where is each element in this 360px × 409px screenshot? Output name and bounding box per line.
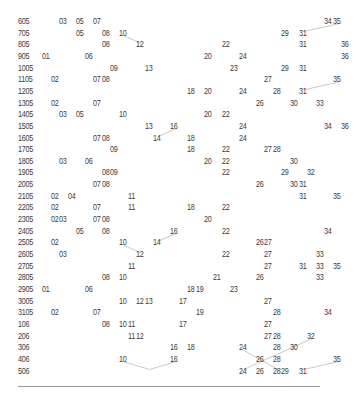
number-cell: 26 (256, 354, 264, 364)
row-label: 1005 (18, 63, 33, 73)
number-cell: 20 (204, 109, 212, 119)
number-cell: 14 (153, 133, 161, 143)
row-label: 2305 (18, 214, 33, 224)
number-cell: 35 (333, 191, 341, 201)
number-cell: 33 (316, 249, 324, 259)
number-cell: 22 (222, 39, 230, 49)
number-cell: 36 (341, 121, 349, 131)
number-cell: 27 (264, 319, 272, 329)
number-cell: 18 (187, 133, 195, 143)
number-cell: 04 (68, 191, 76, 201)
number-cell: 26 (256, 237, 264, 247)
number-cell: 08 (102, 272, 110, 282)
trend-chart: 6050305073435705050810293180508122231369… (0, 0, 360, 409)
number-cell: 09 (110, 144, 118, 154)
number-cell: 24 (239, 342, 247, 352)
row-label: 1305 (18, 98, 33, 108)
number-cell: 17 (179, 296, 187, 306)
connector-line (124, 362, 150, 370)
number-cell: 36 (341, 39, 349, 49)
row-label: 306 (18, 342, 29, 352)
number-cell: 07 (93, 307, 101, 317)
number-cell: 28 (273, 354, 281, 364)
number-cell: 31 (299, 261, 307, 271)
row-label: 1805 (18, 156, 33, 166)
number-cell: 31 (299, 63, 307, 73)
number-cell: 22 (222, 109, 230, 119)
number-cell: 34 (324, 121, 332, 131)
row-label: 1105 (18, 74, 33, 84)
number-cell: 22 (222, 156, 230, 166)
number-cell: 28 (273, 331, 281, 341)
row-label: 2605 (18, 249, 33, 259)
row-label: 2805 (18, 272, 33, 282)
number-cell: 20 (204, 156, 212, 166)
row-label: 2005 (18, 179, 33, 189)
number-cell: 28 (273, 366, 281, 376)
number-cell: 31 (299, 28, 307, 38)
row-label: 2905 (18, 284, 33, 294)
number-cell: 24 (239, 366, 247, 376)
number-cell: 33 (316, 261, 324, 271)
number-cell: 22 (222, 226, 230, 236)
number-cell: 24 (239, 86, 247, 96)
row-label: 1505 (18, 121, 33, 131)
number-cell: 17 (179, 319, 187, 329)
number-cell: 11 (128, 261, 135, 271)
number-cell: 28 (273, 86, 281, 96)
number-cell: 20 (204, 51, 212, 61)
number-cell: 31 (299, 366, 307, 376)
number-cell: 28 (273, 342, 281, 352)
number-cell: 23 (230, 63, 238, 73)
number-cell: 05 (76, 109, 84, 119)
number-cell: 22 (222, 202, 230, 212)
row-label: 805 (18, 39, 29, 49)
number-cell: 10 (119, 296, 127, 306)
row-label: 2705 (18, 261, 33, 271)
number-cell: 16 (170, 342, 178, 352)
number-cell: 24 (239, 51, 247, 61)
number-cell: 09 (110, 63, 118, 73)
row-label: 206 (18, 331, 29, 341)
number-cell: 08 (102, 214, 110, 224)
number-cell: 27 (264, 261, 272, 271)
number-cell: 10 (119, 109, 127, 119)
number-cell: 18 (187, 284, 195, 294)
number-cell: 01 (42, 51, 50, 61)
number-cell: 03 (59, 109, 67, 119)
number-cell: 18 (187, 342, 195, 352)
number-cell: 13 (145, 121, 153, 131)
number-cell: 31 (299, 191, 307, 201)
number-cell: 24 (239, 121, 247, 131)
number-cell: 30 (290, 179, 298, 189)
number-cell: 22 (222, 167, 230, 177)
number-cell: 07 (93, 16, 101, 26)
number-cell: 11 (128, 319, 135, 329)
number-cell: 08 (102, 167, 110, 177)
number-cell: 10 (119, 354, 127, 364)
number-cell: 16 (170, 226, 178, 236)
number-cell: 29 (281, 167, 289, 177)
number-cell: 35 (333, 354, 341, 364)
number-cell: 12 (136, 249, 144, 259)
number-cell: 08 (102, 133, 110, 143)
number-cell: 08 (102, 319, 110, 329)
number-cell: 20 (204, 86, 212, 96)
number-cell: 02 (51, 98, 59, 108)
row-label: 106 (18, 319, 29, 329)
number-cell: 24 (239, 133, 247, 143)
row-label: 406 (18, 354, 29, 364)
number-cell: 07 (93, 98, 101, 108)
number-cell: 31 (299, 39, 307, 49)
number-cell: 08 (102, 179, 110, 189)
number-cell: 18 (187, 144, 195, 154)
number-cell: 29 (281, 63, 289, 73)
number-cell: 18 (187, 202, 195, 212)
number-cell: 01 (42, 284, 50, 294)
number-cell: 19 (196, 284, 204, 294)
row-label: 605 (18, 16, 29, 26)
number-cell: 16 (170, 121, 178, 131)
row-label: 1405 (18, 109, 33, 119)
number-cell: 35 (333, 74, 341, 84)
number-cell: 34 (324, 307, 332, 317)
